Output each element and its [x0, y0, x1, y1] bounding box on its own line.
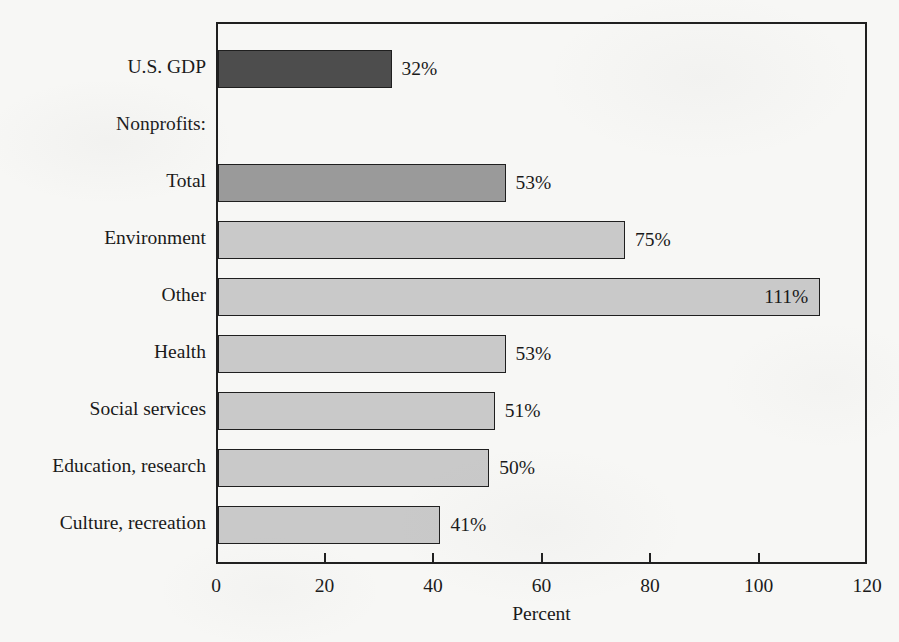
category-label: Other — [0, 285, 206, 305]
bar-value-label: 50% — [499, 458, 535, 478]
bar-value-label: 41% — [450, 515, 486, 535]
plot-area: 32%53%75%111%53%51%50%41% — [216, 22, 867, 564]
category-label: Health — [0, 342, 206, 362]
category-label: Social services — [0, 399, 206, 419]
bar — [218, 221, 625, 259]
bar-row: 53% — [218, 335, 869, 373]
category-label: Environment — [0, 228, 206, 248]
bar — [218, 392, 495, 430]
bar-row: 111% — [218, 278, 869, 316]
bar-row: 32% — [218, 50, 869, 88]
bar-value-label: 53% — [516, 344, 552, 364]
bar-value-label: 53% — [516, 173, 552, 193]
bar-value-label: 75% — [635, 230, 671, 250]
category-group-header: Nonprofits: — [0, 114, 206, 134]
bar — [218, 449, 489, 487]
bar-value-label: 51% — [505, 401, 541, 421]
x-axis-tick-label: 20 — [315, 576, 335, 596]
bar-chart-figure: U.S. GDPNonprofits:TotalEnvironmentOther… — [0, 0, 899, 642]
x-axis-tick-label: 120 — [852, 576, 881, 596]
bar — [218, 50, 392, 88]
x-axis-tick-label: 80 — [640, 576, 660, 596]
bar-row: 50% — [218, 449, 869, 487]
bar-value-label: 111% — [764, 287, 808, 307]
x-axis-tick-mark — [541, 553, 543, 564]
category-label: Education, research — [0, 456, 206, 476]
x-axis-tick-mark — [324, 553, 326, 564]
x-axis-tick-label: 60 — [532, 576, 552, 596]
x-axis-tick-label: 0 — [211, 576, 221, 596]
x-axis-tick-mark — [649, 553, 651, 564]
bar — [218, 164, 506, 202]
category-label: U.S. GDP — [0, 57, 206, 77]
bar-row: 41% — [218, 506, 869, 544]
bar — [218, 506, 440, 544]
bar-value-label: 32% — [402, 59, 438, 79]
x-axis-title: Percent — [216, 604, 867, 624]
bar-row: 51% — [218, 392, 869, 430]
category-label: Culture, recreation — [0, 513, 206, 533]
x-axis-tick-mark — [758, 553, 760, 564]
bar — [218, 335, 506, 373]
bar — [218, 278, 820, 316]
x-axis-tick-label: 40 — [423, 576, 443, 596]
category-label: Total — [0, 171, 206, 191]
x-axis-tick-mark — [432, 553, 434, 564]
bar-row: 75% — [218, 221, 869, 259]
bar-row: 53% — [218, 164, 869, 202]
x-axis-tick-label: 100 — [744, 576, 773, 596]
category-axis-labels: U.S. GDPNonprofits:TotalEnvironmentOther… — [0, 22, 206, 564]
